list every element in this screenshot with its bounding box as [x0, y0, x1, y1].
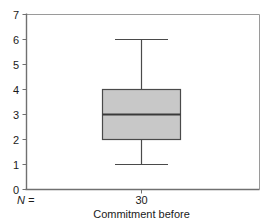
y-tick-label-3: 3 — [13, 109, 19, 121]
y-tick-label-6: 6 — [13, 34, 19, 46]
y-tick-label-2: 2 — [13, 134, 19, 146]
x-axis-title: Commitment before — [93, 208, 190, 220]
y-tick-label-7: 7 — [13, 9, 19, 21]
boxplot-canvas: 7 6 5 4 3 2 1 0 N = — [0, 0, 267, 222]
y-tick-label-4: 4 — [13, 84, 19, 96]
y-tick-label-5: 5 — [13, 59, 19, 71]
boxplot-figure: 7 6 5 4 3 2 1 0 N = — [0, 0, 267, 222]
group-count-label: 30 — [135, 194, 147, 206]
y-tick-label-1: 1 — [13, 159, 19, 171]
n-prefix-label: N = — [17, 194, 35, 206]
